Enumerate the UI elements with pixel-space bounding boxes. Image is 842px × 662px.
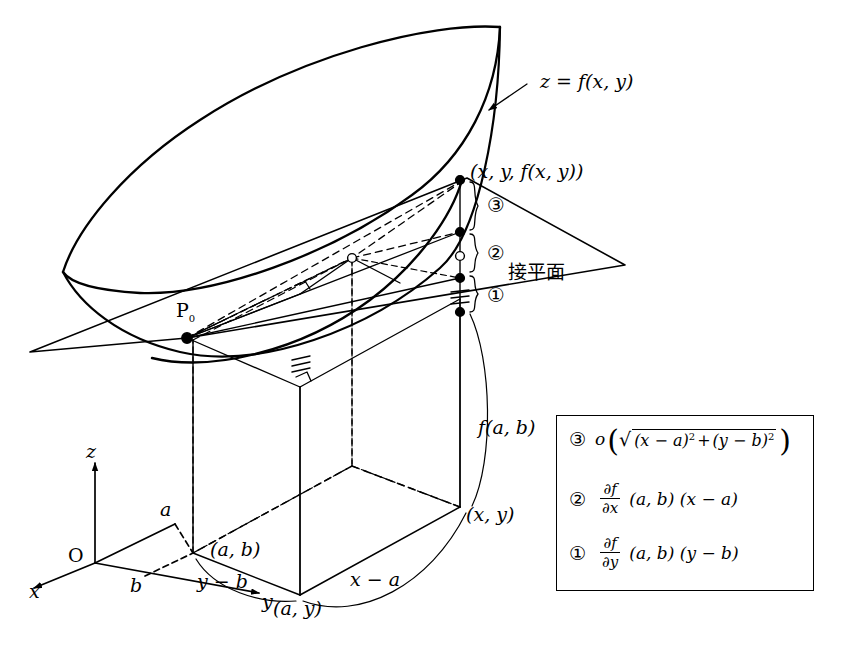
legend-term1: (x − a) xyxy=(634,431,689,450)
legend-plus: + xyxy=(695,431,712,450)
legend-frac-den-1: ∂y xyxy=(600,552,620,571)
dot-point-3 xyxy=(456,274,465,283)
tick-a-label: a xyxy=(160,500,171,519)
p0-subscript: 0 xyxy=(189,313,195,324)
p0-letter: P xyxy=(176,299,189,321)
legend-marker-1: ① xyxy=(569,542,586,564)
tick-b-label: b xyxy=(130,576,142,595)
radical-icon: √ xyxy=(619,428,631,450)
dot-point-open xyxy=(456,252,465,261)
dot-point-base xyxy=(456,308,465,317)
point-markers xyxy=(182,176,465,344)
legend-frac-num-1: ∂f xyxy=(600,534,620,552)
measure-arc-xa xyxy=(303,513,466,607)
legend-box: ③ o ( √ (x − a)2+(y − b)2 ) ② ∂f ∂x (a, … xyxy=(556,415,814,591)
base-point-ab-label: (a, b) xyxy=(210,540,260,559)
axis-x-label: x xyxy=(29,582,40,601)
legend-o-symbol: o xyxy=(595,429,605,449)
origin-label: O xyxy=(68,546,84,565)
dot-point-p0 xyxy=(182,333,192,343)
tangent-plane-label: 接平面 xyxy=(508,263,565,282)
legend-close-paren: ) xyxy=(779,430,791,453)
axis-z-label: z xyxy=(86,442,96,461)
base-point-xy-label: (x, y) xyxy=(466,505,514,524)
dot-point-mid-open xyxy=(348,254,357,263)
marker-2: ② xyxy=(487,243,505,263)
figure-canvas: z = f(x, y) (x, y, f(x, y)) 接平面 P0 ③ ② ①… xyxy=(0,0,842,662)
legend-args-1: (a, b) (y − b) xyxy=(629,543,738,563)
legend-marker-2: ② xyxy=(569,488,586,510)
surface-outline xyxy=(63,27,500,294)
marker-3: ③ xyxy=(487,195,505,215)
legend-frac-den-2: ∂x xyxy=(600,498,620,517)
delta-y-label: y − b xyxy=(197,572,248,591)
equal-marks-left xyxy=(292,356,310,372)
dot-point-top xyxy=(456,176,465,185)
inner-prism-dashed xyxy=(187,258,460,553)
axis-y-label: y xyxy=(262,592,273,611)
legend-radicand: (x − a)2+(y − b)2 xyxy=(632,429,776,450)
surface-equation-label: z = f(x, y) xyxy=(540,72,633,91)
legend-marker-3: ③ xyxy=(569,428,586,450)
dot-point-2 xyxy=(456,228,465,237)
legend-row-1: ① ∂f ∂y (a, b) (y − b) xyxy=(569,534,739,571)
legend-frac-num-2: ∂f xyxy=(600,480,620,498)
legend-row-2: ② ∂f ∂x (a, b) (x − a) xyxy=(569,480,738,517)
legend-term2-exp: 2 xyxy=(768,431,774,442)
legend-row-3: ③ o ( √ (x − a)2+(y − b)2 ) xyxy=(569,428,791,451)
axis-x xyxy=(34,563,95,588)
tick-a-guide xyxy=(175,524,193,553)
legend-partial-fraction-x: ∂f ∂x xyxy=(600,480,620,517)
legend-term2: (y − b) xyxy=(713,431,768,450)
p0-label: P0 xyxy=(176,301,195,324)
delta-x-label: x − a xyxy=(350,570,400,589)
tick-b-guide xyxy=(145,553,193,576)
legend-args-2: (a, b) (x − a) xyxy=(629,489,738,509)
vertical-lines xyxy=(193,182,460,595)
axis-diag-a xyxy=(95,524,175,563)
legend-open-paren: ( xyxy=(607,430,619,453)
legend-partial-fraction-y: ∂f ∂y xyxy=(600,534,620,571)
base-point-ay-label: (a, y) xyxy=(273,599,322,618)
marker-1: ① xyxy=(487,285,505,305)
brace-2 xyxy=(470,234,478,272)
leader-arrow-surface xyxy=(489,84,527,110)
top-point-label: (x, y, f(x, y)) xyxy=(470,162,583,181)
height-label-fab: f(a, b) xyxy=(478,418,535,437)
brace-1 xyxy=(470,276,478,312)
surface-dashed-construction xyxy=(187,178,467,340)
measure-arc-fab xyxy=(470,314,488,506)
right-angle-marker-lower xyxy=(296,372,311,381)
